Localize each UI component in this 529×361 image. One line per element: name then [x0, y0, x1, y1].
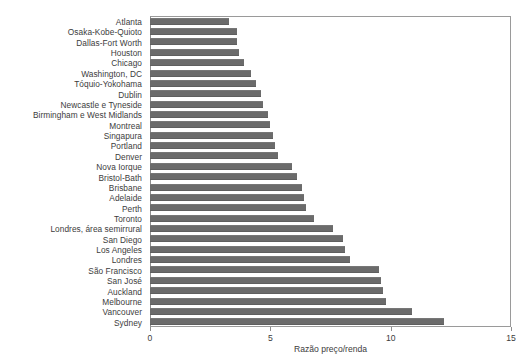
x-tick-label: 10 [386, 333, 396, 343]
x-tick-label: 15 [506, 333, 516, 343]
bar [150, 287, 383, 294]
bar [150, 80, 256, 87]
bar [150, 70, 251, 77]
price-to-income-bar-chart: AtlantaOsaka-Kobe-QuiotoDallas-Fort Wort… [0, 0, 529, 361]
bar [150, 235, 343, 242]
bar [150, 49, 239, 56]
bar [150, 142, 275, 149]
bar [150, 38, 237, 45]
bar [150, 266, 379, 273]
x-tick-mark [270, 327, 271, 331]
x-tick-mark [391, 327, 392, 331]
bar [150, 194, 304, 201]
bar [150, 277, 381, 284]
bar [150, 121, 270, 128]
bar [150, 225, 333, 232]
category-label: Sydney [114, 317, 142, 329]
bar [150, 163, 292, 170]
x-tick-mark [511, 327, 512, 331]
x-tick-label: 5 [268, 333, 273, 343]
bar [150, 152, 278, 159]
bar [150, 246, 345, 253]
bar [150, 184, 302, 191]
bar [150, 215, 314, 222]
bar [150, 111, 268, 118]
bar [150, 101, 263, 108]
bar [150, 318, 444, 325]
bar [150, 204, 306, 211]
bar [150, 173, 297, 180]
bar [150, 28, 237, 35]
category-axis: AtlantaOsaka-Kobe-QuiotoDallas-Fort Wort… [0, 16, 146, 327]
bar [150, 90, 261, 97]
x-tick-mark [150, 327, 151, 331]
bar [150, 59, 244, 66]
bar [150, 132, 273, 139]
x-tick-label: 0 [148, 333, 153, 343]
bars-layer [150, 16, 511, 327]
x-axis-title: Razão preço/renda [150, 344, 511, 354]
bar [150, 18, 229, 25]
bar [150, 298, 386, 305]
bar [150, 256, 350, 263]
bar [150, 308, 412, 315]
